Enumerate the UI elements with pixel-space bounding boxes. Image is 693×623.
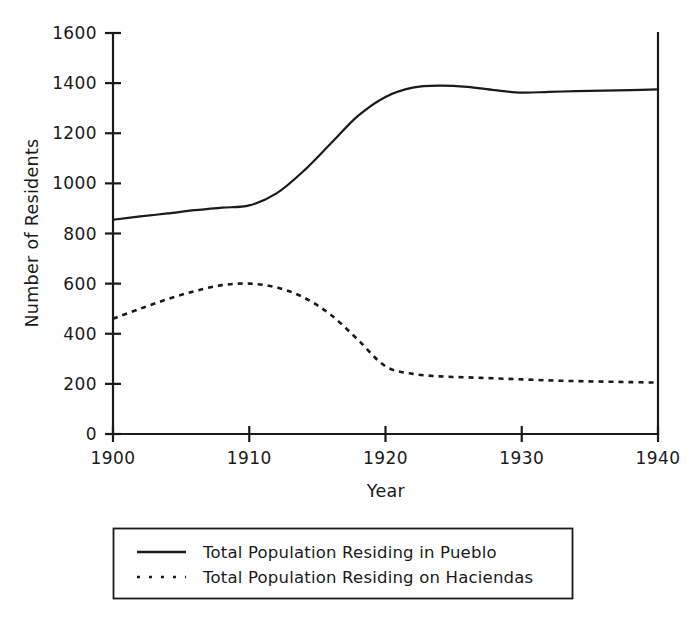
y-axis-ticks: 02004006008001000120014001600 (52, 23, 121, 444)
y-tick-label: 1200 (52, 123, 97, 143)
x-tick-label: 1920 (363, 448, 408, 468)
x-tick-label: 1910 (227, 448, 272, 468)
legend-entry-label-pueblo: Total Population Residing in Pueblo (202, 543, 497, 562)
y-tick-label: 800 (63, 224, 97, 244)
axes-spines (113, 33, 658, 434)
y-tick-label: 200 (63, 374, 97, 394)
legend-box (114, 529, 573, 599)
chart-figure: 02004006008001000120014001600 1900191019… (0, 0, 693, 623)
x-axis-ticks: 19001910192019301940 (91, 426, 681, 468)
y-tick-label: 1000 (52, 173, 97, 193)
y-axis-title: Number of Residents (22, 138, 42, 327)
x-tick-label: 1900 (91, 448, 136, 468)
x-tick-label: 1930 (499, 448, 544, 468)
chart-legend: Total Population Residing in Pueblo Tota… (114, 529, 573, 599)
x-tick-label: 1940 (636, 448, 681, 468)
data-series-layer (113, 86, 658, 383)
line-chart-svg: 02004006008001000120014001600 1900191019… (0, 0, 693, 623)
x-axis-title: Year (366, 481, 406, 501)
y-tick-label: 1600 (52, 23, 97, 43)
series-line-pueblo (113, 86, 658, 220)
series-line-haciendas (113, 284, 658, 383)
legend-entry-label-haciendas: Total Population Residing on Haciendas (202, 568, 533, 587)
y-tick-label: 600 (63, 274, 97, 294)
y-tick-label: 0 (86, 424, 97, 444)
y-tick-label: 400 (63, 324, 97, 344)
y-tick-label: 1400 (52, 73, 97, 93)
